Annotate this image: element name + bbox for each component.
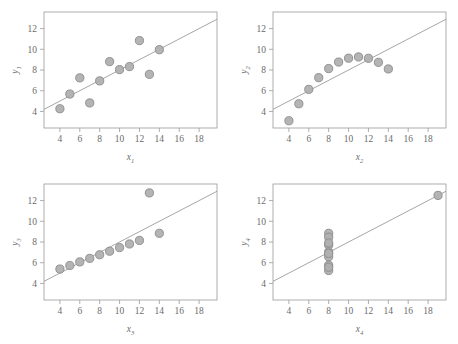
data-point	[434, 191, 442, 199]
x-tick-label: 14	[155, 134, 165, 144]
x-tick-label: 14	[155, 306, 165, 316]
data-point	[106, 58, 114, 66]
data-point	[335, 58, 343, 66]
y-tick-label: 12	[257, 196, 267, 206]
data-point	[125, 240, 133, 248]
x-tick-label: 18	[423, 306, 433, 316]
y-tick-label: 8	[261, 65, 266, 75]
x-tick-label: 12	[364, 134, 374, 144]
data-point	[66, 90, 74, 98]
x-tick-label: 16	[174, 134, 184, 144]
scatter-plot-1: 46810121416184681012x1y1	[0, 0, 229, 172]
y-tick-label: 12	[28, 196, 38, 206]
data-point	[325, 239, 333, 247]
x-tick-label: 6	[306, 134, 311, 144]
y-tick-label: 6	[32, 86, 37, 96]
data-point	[305, 85, 313, 93]
x-tick-label: 18	[194, 134, 204, 144]
data-point	[364, 54, 372, 62]
y-tick-label: 10	[257, 45, 267, 55]
data-point	[56, 105, 64, 113]
x-tick-label: 12	[135, 306, 145, 316]
y-tick-label: 6	[32, 258, 37, 268]
data-points	[56, 36, 164, 112]
data-point	[145, 189, 153, 197]
data-point	[86, 254, 94, 262]
y-axis-title-group: y1	[10, 66, 22, 74]
scatter-plot-4: 46810121416184681012x4y4	[229, 172, 458, 344]
scatter-panel-4: 46810121416184681012x4y4	[229, 172, 458, 344]
y-tick-label: 8	[32, 237, 37, 247]
data-points	[56, 189, 164, 273]
x-tick-label: 6	[306, 306, 311, 316]
y-tick-label: 8	[32, 65, 37, 75]
x-tick-label: 14	[384, 134, 394, 144]
y-tick-label: 12	[257, 24, 267, 34]
anscombe-quartet-figure: 46810121416184681012x1y1 468101214161846…	[0, 0, 458, 344]
data-point	[145, 70, 153, 78]
scatter-plot-2: 46810121416184681012x2y2	[229, 0, 458, 172]
data-point	[325, 64, 333, 72]
y-axis-title: y2	[239, 66, 251, 75]
y-tick-label: 10	[257, 217, 267, 227]
y-tick-label: 10	[28, 217, 38, 227]
scatter-plot-3: 46810121416184681012x3y3	[0, 172, 229, 344]
x-tick-label: 12	[135, 134, 145, 144]
data-point	[135, 36, 143, 44]
x-tick-label: 18	[423, 134, 433, 144]
x-axis-title: x4	[355, 324, 364, 336]
x-tick-label: 4	[287, 134, 292, 144]
data-point	[106, 247, 114, 255]
y-axis-title: y3	[10, 238, 22, 247]
x-tick-label: 16	[403, 306, 413, 316]
plot-frame	[273, 12, 446, 128]
x-tick-label: 10	[344, 134, 354, 144]
data-point	[56, 265, 64, 273]
x-tick-label: 8	[326, 306, 331, 316]
data-point	[285, 117, 293, 125]
y-tick-label: 4	[32, 279, 37, 289]
data-point	[125, 62, 133, 70]
data-point	[96, 77, 104, 85]
data-point	[115, 243, 123, 251]
data-point	[315, 74, 323, 82]
x-tick-label: 8	[97, 134, 102, 144]
regression-line	[273, 19, 446, 109]
data-point	[86, 99, 94, 107]
y-tick-label: 6	[261, 86, 266, 96]
y-tick-label: 6	[261, 258, 266, 268]
y-tick-label: 4	[261, 107, 266, 117]
y-tick-label: 10	[28, 45, 38, 55]
x-tick-label: 4	[287, 306, 292, 316]
y-axis-title: y4	[239, 238, 251, 247]
x-tick-label: 18	[194, 306, 204, 316]
x-tick-label: 14	[384, 306, 394, 316]
data-point	[135, 236, 143, 244]
y-tick-label: 4	[261, 279, 266, 289]
y-axis-title-group: y2	[239, 66, 251, 75]
x-tick-label: 8	[97, 306, 102, 316]
x-tick-label: 8	[326, 134, 331, 144]
data-point	[155, 229, 163, 237]
x-tick-label: 6	[77, 134, 82, 144]
data-point	[325, 249, 333, 257]
y-tick-label: 4	[32, 107, 37, 117]
data-point	[66, 261, 74, 269]
x-tick-label: 10	[115, 134, 125, 144]
data-point	[325, 263, 333, 271]
data-point	[344, 54, 352, 62]
x-tick-label: 16	[403, 134, 413, 144]
x-tick-label: 4	[58, 306, 63, 316]
data-point	[96, 251, 104, 259]
x-tick-label: 10	[344, 306, 354, 316]
data-point	[155, 46, 163, 54]
data-point	[115, 65, 123, 73]
x-tick-label: 10	[115, 306, 125, 316]
x-axis-title: x1	[126, 152, 134, 164]
y-axis-title-group: y4	[239, 238, 251, 247]
x-axis-title: x3	[126, 324, 135, 336]
y-tick-label: 12	[28, 24, 38, 34]
x-tick-label: 12	[364, 306, 374, 316]
scatter-panel-2: 46810121416184681012x2y2	[229, 0, 458, 172]
data-point	[354, 53, 362, 61]
